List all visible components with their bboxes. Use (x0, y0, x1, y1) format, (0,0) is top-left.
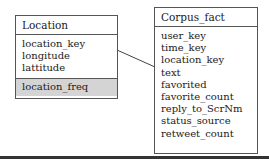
entity-title: Location (16, 16, 117, 35)
derived-attribute: location_freq (22, 81, 111, 93)
attribute: text (161, 67, 251, 79)
attribute: status_source (161, 115, 251, 127)
entity-title: Corpus_fact (155, 8, 257, 27)
attribute: time_key (161, 42, 251, 54)
attribute: user_key (161, 30, 251, 42)
attribute: lattitude (22, 62, 111, 74)
attribute: location_key (161, 54, 251, 66)
entity-location: Location location_key longitude lattitud… (15, 15, 118, 99)
attribute: location_key (22, 38, 111, 50)
attribute-list: user_key time_key location_key text favo… (155, 27, 257, 143)
attribute: retweet_count (161, 128, 251, 140)
attribute: reply_to_ScrNm (161, 103, 251, 115)
attribute: longitude (22, 50, 111, 62)
attribute: favorited (161, 79, 251, 91)
attribute-list: location_key longitude lattitude (16, 35, 117, 78)
attribute: favorite_count (161, 91, 251, 103)
derived-attribute-section: location_freq (16, 78, 117, 96)
bottom-divider (0, 156, 269, 159)
entity-corpus-fact: Corpus_fact user_key time_key location_k… (154, 7, 258, 154)
